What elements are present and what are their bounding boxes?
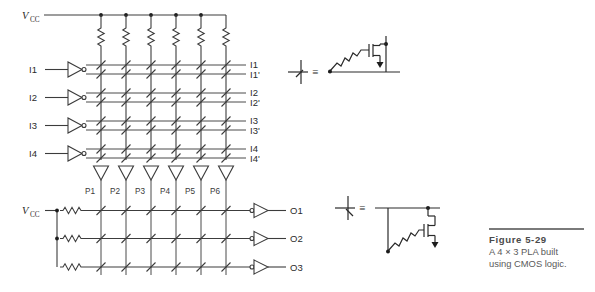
product-term-p2: P2 [110,187,120,196]
row-label-7: I4' [250,153,260,164]
and-input-buffers: I1 I2 I3 I4 [29,62,86,161]
output-label-o2: O2 [290,233,303,244]
row-label-1: I1' [250,69,260,80]
product-term-p1: P1 [85,187,95,196]
and-pullup-resistors [98,13,229,160]
pla-figure: V CC [0,0,595,292]
and-column-drivers [94,166,234,180]
or-array-vcc-label: V CC [22,205,40,219]
and-row-lines [86,65,246,158]
and-row-labels: I1 I1' I2 I2' I3 I3' I4 I4' [250,59,260,164]
caption-rule [489,228,584,230]
or-output-inverters: O1 O2 O3 [250,204,303,275]
output-label-o1: O1 [290,205,303,216]
svg-text:V: V [22,10,30,21]
input-label-i1: I1 [29,64,37,75]
row-label-3: I2' [250,97,260,108]
or-product-term-labels: P1 P2 P3 P4 P5 P6 [85,187,220,196]
or-pullup-resistors [60,207,250,270]
and-array-vcc-label: V CC [22,10,40,24]
and-array: V CC [22,10,260,180]
product-term-p4: P4 [160,187,170,196]
input-label-i4: I4 [29,148,37,159]
svg-text:CC: CC [30,211,40,219]
caption-line-1: A 4 × 3 PLA built [489,246,590,258]
svg-text:CC: CC [30,16,40,24]
input-label-i3: I3 [29,120,37,131]
legend-bottom-equals: ≡ [359,202,365,214]
row-label-5: I3' [250,125,260,136]
input-label-i2: I2 [29,92,37,103]
product-term-p6: P6 [210,187,220,196]
caption-line-2: using CMOS logic. [489,258,590,270]
legend-bottom: ≡ [335,196,440,254]
product-term-p3: P3 [135,187,145,196]
legend-top: ≡ [288,36,400,84]
or-array: P1 P2 P3 P4 P5 P6 V CC [22,180,303,275]
product-term-p5: P5 [185,187,195,196]
and-array-transistors [97,61,231,163]
figure-caption: Figure 5-29 A 4 × 3 PLA built using CMOS… [489,228,590,269]
caption-title: Figure 5-29 [489,234,590,246]
svg-text:V: V [22,205,30,216]
legend-top-equals: ≡ [312,66,318,78]
output-label-o3: O3 [290,262,303,273]
